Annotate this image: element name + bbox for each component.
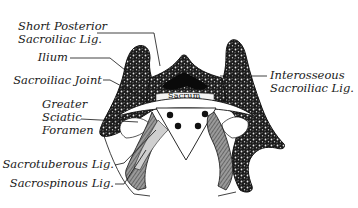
label-line: Sacroiliac Joint <box>2 74 102 87</box>
label-sacrospinous-lig: Sacrospinous Lig. <box>2 177 114 190</box>
label-greater-sciatic-foramen: Greater Sciatic Foramen <box>42 98 94 137</box>
label-line: Sacrotuberous Lig. <box>2 158 114 171</box>
right-ilium-shape <box>206 40 285 192</box>
leader-ilium <box>70 58 130 74</box>
anatomy-diagram: Sacrum Short Posterior Sacroiliac Lig. I… <box>0 0 358 208</box>
sacrum-label: Sacrum <box>168 91 201 100</box>
label-interosseous-sacroiliac-lig: Interosseous Sacroiliac Lig. <box>270 69 354 95</box>
label-sacroiliac-joint: Sacroiliac Joint <box>2 74 102 87</box>
label-line: Sacroiliac Lig. <box>270 82 354 95</box>
label-line: Foramen <box>42 124 94 137</box>
label-line: Sacroiliac Lig. <box>18 33 96 46</box>
label-sacrotuberous-lig: Sacrotuberous Lig. <box>2 158 114 171</box>
label-line: Sacrospinous Lig. <box>2 177 114 190</box>
label-short-posterior-sacroiliac-lig: Short Posterior Sacroiliac Lig. <box>18 20 96 46</box>
label-ilium: Ilium <box>20 51 68 64</box>
label-line: Ilium <box>20 51 68 64</box>
